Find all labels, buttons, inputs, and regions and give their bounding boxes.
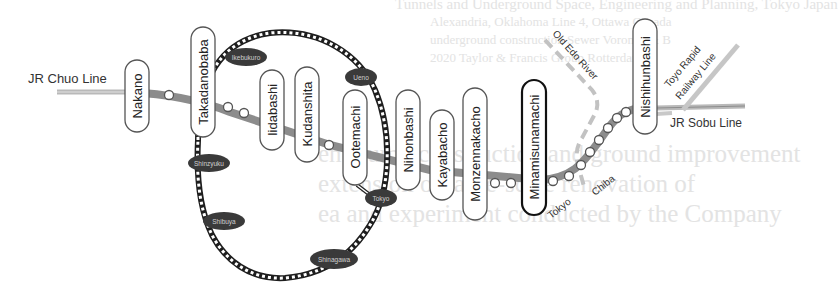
label-jr-sobu-line: JR Sobu Line [670, 116, 742, 130]
station-iidabashi: Iidabashi [260, 70, 284, 150]
station-kayabacho: Kayabacho [430, 110, 454, 200]
station-nishihunbashi: Nishihunbashi [633, 19, 657, 134]
svg-text:Nishihunbashi: Nishihunbashi [638, 36, 653, 118]
svg-text:Shibuya: Shibuya [212, 218, 236, 226]
svg-text:Iidabashi: Iidabashi [265, 84, 280, 136]
svg-text:Kayabacho: Kayabacho [435, 122, 450, 187]
svg-text:Nihonbashi: Nihonbashi [401, 107, 416, 172]
jr-station-ueno: Ueno [345, 68, 377, 86]
svg-text:Ikebukuro: Ikebukuro [232, 54, 261, 61]
station-kudanshita: Kudanshita [295, 67, 319, 162]
station-takadanobaba: Takadanobaba [191, 27, 215, 137]
svg-text:Nakano: Nakano [130, 74, 145, 119]
svg-text:Ueno: Ueno [353, 74, 369, 81]
station-ootemachi: Ootemachi [343, 90, 367, 185]
jr-sobu-line [656, 106, 745, 114]
station-minamisunamachi: Minamisunamachi [522, 80, 546, 215]
svg-text:Shinzyuku: Shinzyuku [194, 160, 224, 168]
station-nakano: Nakano [125, 60, 149, 132]
svg-text:Ootemachi: Ootemachi [348, 105, 363, 168]
jr-station-shibuya: Shibuya [203, 212, 245, 230]
svg-text:Tokyo: Tokyo [373, 195, 390, 203]
jr-station-ikebukuro: Ikebukuro [225, 48, 267, 66]
label-direction-tokyo: Tokyo [545, 196, 573, 221]
jr-station-tokyo: Tokyo [357, 185, 397, 207]
station-nihonbashi: Nihonbashi [396, 90, 420, 190]
svg-text:Minamisunamachi: Minamisunamachi [527, 95, 542, 200]
station-monzennakacho: Monzennakacho [463, 88, 487, 220]
svg-text:Monzennakacho: Monzennakacho [468, 106, 483, 201]
label-direction-chiba: Chiba [589, 173, 617, 198]
label-jr-chuo-line: JR Chuo Line [28, 71, 107, 86]
svg-text:Takadanobaba: Takadanobaba [196, 39, 211, 125]
jr-station-shinagawa: Shinagawa [310, 249, 358, 269]
svg-text:Kudanshita: Kudanshita [300, 81, 315, 147]
jr-station-shinzyuku: Shinzyuku [188, 154, 230, 172]
svg-text:Shinagawa: Shinagawa [318, 256, 351, 264]
